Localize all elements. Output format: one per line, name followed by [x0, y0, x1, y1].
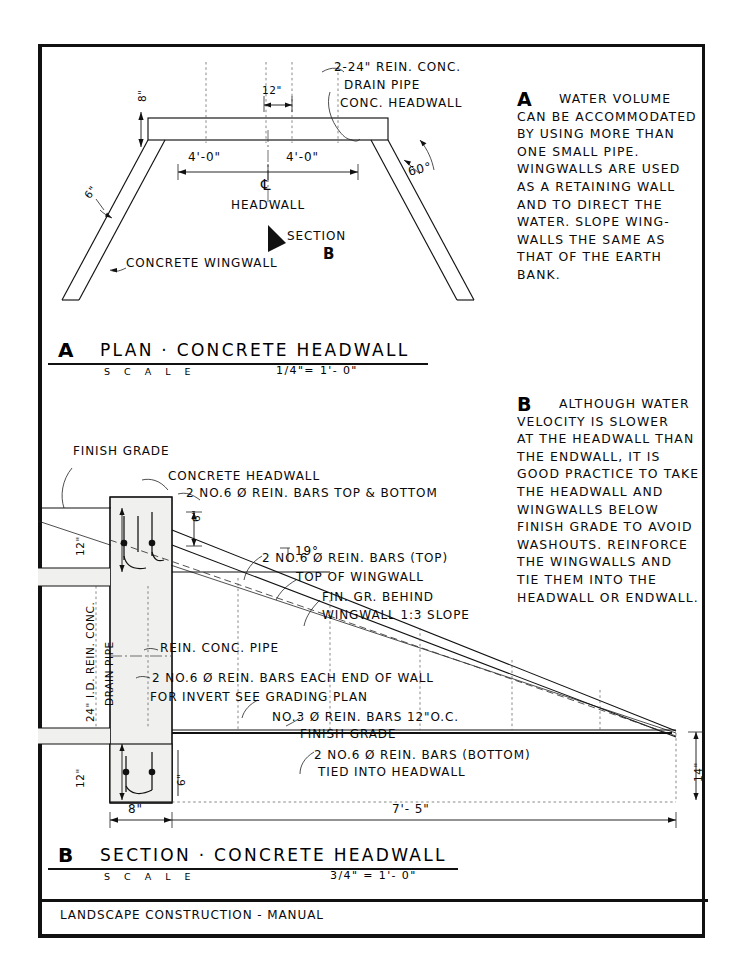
section-title-key-letter: B — [58, 843, 73, 867]
note-line: AND TO DIRECT THE — [517, 196, 717, 214]
plan-dim-right-4ft: 4'-0" — [286, 150, 319, 164]
note-line: VELOCITY IS SLOWER — [517, 413, 717, 431]
note-line: WASHOUTS. REINFORCE — [517, 536, 717, 554]
note-line: ALTHOUGH WATER — [517, 395, 717, 413]
note-line: BY USING MORE THAN — [517, 125, 717, 143]
note-line: GOOD PRACTICE TO TAKE — [517, 465, 717, 483]
section-scale-word: S C A L E — [104, 871, 196, 882]
section-scale-value: 3/4" = 1'- 0" — [330, 869, 417, 882]
note-line: THAT OF THE EARTH — [517, 248, 717, 266]
plan-section-callout: SECTION — [287, 229, 346, 243]
plan-dim-left-4ft: 4'-0" — [188, 150, 221, 164]
note-line: HEADWALL OR ENDWALL. — [517, 589, 717, 607]
section-bars-bottom-line2: TIED INTO HEADWALL — [318, 765, 466, 779]
plan-title-key-letter: A — [58, 338, 73, 362]
section-dim-12in-bottom: 12" — [74, 768, 86, 788]
section-bars-no3-label: NO.3 Ø REIN. BARS 12"O.C. — [272, 710, 459, 724]
plan-headwall-note: CONC. HEADWALL — [340, 96, 462, 110]
plan-wingwall-label: CONCRETE WINGWALL — [126, 256, 278, 270]
note-line: THE HEADWALL AND — [517, 483, 717, 501]
plan-scale-word: S C A L E — [104, 366, 196, 377]
section-concrete-headwall-label: CONCRETE HEADWALL — [168, 469, 320, 483]
section-bars-each-end-label: 2 NO.6 Ø REIN. BARS EACH END OF WALL — [152, 671, 434, 685]
section-rein-conc-pipe-label: REIN. CONC. PIPE — [160, 641, 279, 655]
note-line: WALLS THE SAME AS — [517, 231, 717, 249]
section-bars-bottom-line1: 2 NO.6 Ø REIN. BARS (BOTTOM) — [314, 748, 530, 762]
note-line: WINGWALLS ARE USED — [517, 160, 717, 178]
note-line: CAN BE ACCOMMODATED — [517, 108, 717, 126]
section-title: SECTION · CONCRETE HEADWALL — [100, 845, 447, 865]
section-dim-14in: 14" — [692, 762, 704, 782]
section-dim-7ft5: 7'- 5" — [392, 802, 430, 816]
note-line: WATER. SLOPE WING- — [517, 213, 717, 231]
note-line: WINGWALLS BELOW — [517, 501, 717, 519]
note-line: THE WINGWALLS AND — [517, 553, 717, 571]
section-top-of-wingwall-label: TOP OF WINGWALL — [296, 570, 424, 584]
section-dim-6in-headwall: 6" — [190, 509, 202, 522]
plan-headwall-label: HEADWALL — [231, 198, 305, 212]
plan-dim-8in: 8" — [136, 89, 148, 102]
section-finish-grade-low: FINISH GRADE — [300, 727, 396, 741]
section-finish-grade-top: FINISH GRADE — [73, 444, 169, 458]
plan-title-rule — [48, 363, 428, 365]
note-line: WATER VOLUME — [517, 90, 717, 108]
note-b-text: ALTHOUGH WATERVELOCITY IS SLOWERAT THE H… — [517, 395, 717, 606]
section-fin-gr-behind-line2: WINGWALL 1:3 SLOPE — [322, 608, 470, 622]
plan-centerline-symbol: ℄ — [261, 176, 272, 194]
section-dim-12in-top: 12" — [74, 536, 86, 556]
plan-title: PLAN · CONCRETE HEADWALL — [100, 340, 410, 360]
drawing-sheet: LANDSCAPE CONSTRUCTION - MANUAL — [0, 0, 736, 967]
note-line: THE ENDWALL, IT IS — [517, 448, 717, 466]
section-pipe-label-line1: 24" I.D. REIN. CONC. — [84, 602, 96, 722]
section-fin-gr-behind-line1: FIN. GR. BEHIND — [322, 590, 434, 604]
note-line: TIE THEM INTO THE — [517, 571, 717, 589]
note-a-text: WATER VOLUMECAN BE ACCOMMODATEDBY USING … — [517, 90, 717, 284]
plan-section-letter: B — [323, 245, 335, 263]
plan-dim-12in: 12" — [262, 84, 282, 96]
section-dim-8in-base: 8" — [128, 802, 143, 816]
note-line: AS A RETAINING WALL — [517, 178, 717, 196]
note-line: BANK. — [517, 266, 717, 284]
plan-pipe-note-line2: DRAIN PIPE — [344, 78, 420, 92]
section-bars-top-label: 2 NO.6 Ø REIN. BARS (TOP) — [262, 551, 448, 565]
note-line: FINISH GRADE TO AVOID — [517, 518, 717, 536]
plan-pipe-note-line1: 2-24" REIN. CONC. — [334, 60, 461, 74]
section-bars-top-bottom-label: 2 NO.6 Ø REIN. BARS TOP & BOTTOM — [186, 486, 438, 500]
note-line: AT THE HEADWALL THAN — [517, 430, 717, 448]
section-invert-note: FOR INVERT SEE GRADING PLAN — [150, 690, 368, 704]
plan-scale-value: 1/4"= 1'- 0" — [276, 364, 358, 377]
note-line: ONE SMALL PIPE. — [517, 143, 717, 161]
section-dim-6in-wall: 6" — [175, 773, 187, 786]
section-pipe-label-line2: DRAIN PIPE — [103, 641, 115, 706]
